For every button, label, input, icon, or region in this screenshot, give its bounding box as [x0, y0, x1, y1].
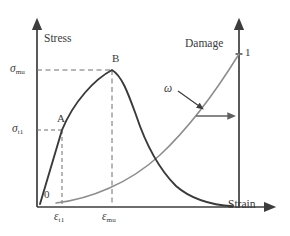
- stress-axis-label: Stress: [44, 33, 71, 45]
- origin-label: 0: [44, 189, 50, 200]
- omega-pointer-arrow: [178, 91, 199, 106]
- sigma-t1-symbol: σ: [12, 122, 18, 134]
- point-a-label: A: [57, 113, 65, 124]
- epsilon-mu-tick-label: εmu: [102, 211, 116, 223]
- damage-tick-one-label: 1: [245, 47, 251, 58]
- sigma-mu-subscript: mu: [16, 68, 25, 76]
- epsilon-t1-subscript: t1: [59, 216, 65, 224]
- epsilon-mu-subscript: mu: [107, 216, 116, 224]
- sigma-t1-subscript: t1: [18, 128, 24, 136]
- stress-strain-curve: [40, 70, 233, 206]
- point-b-label: B: [112, 53, 119, 64]
- strain-axis-label: Strain: [228, 199, 255, 211]
- sigma-t1-tick-label: σt1: [12, 123, 23, 135]
- damage-curve: [56, 54, 239, 203]
- damage-axis-label: Damage: [185, 38, 223, 50]
- sigma-mu-symbol: σ: [10, 62, 16, 74]
- epsilon-mu-symbol: ε: [102, 210, 107, 222]
- stress-damage-strain-diagram: Stress Damage Strain σmu σt1 εt1 εmu A B…: [0, 0, 290, 236]
- epsilon-t1-symbol: ε: [54, 210, 59, 222]
- sigma-mu-tick-label: σmu: [10, 63, 25, 75]
- omega-label: ω: [164, 83, 172, 95]
- epsilon-t1-tick-label: εt1: [54, 211, 64, 223]
